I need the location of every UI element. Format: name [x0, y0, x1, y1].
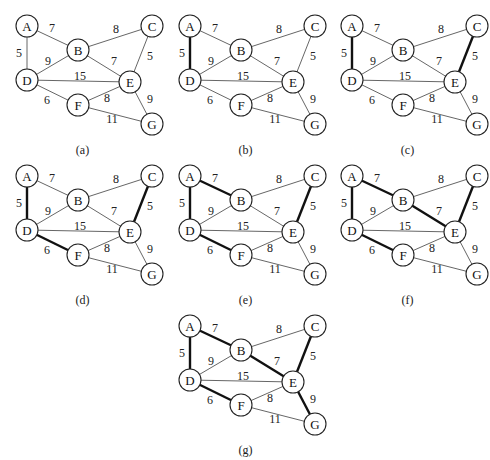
node-C: C — [304, 165, 326, 187]
edge-weight-DF: 6 — [207, 243, 213, 257]
edge-weight-BC: 8 — [276, 22, 282, 36]
node-label: C — [311, 319, 320, 334]
graph-canvas: 7589751568911ABCDEFG — [325, 0, 490, 140]
node-E: E — [282, 371, 304, 393]
edge-weight-BC: 8 — [113, 22, 119, 36]
edge-weight-DF: 6 — [207, 93, 213, 107]
edge-weight-FG: 11 — [269, 112, 281, 126]
node-D: D — [16, 219, 38, 241]
node-label: A — [347, 19, 357, 34]
edge-weight-FG: 11 — [106, 262, 118, 276]
graph-canvas: 7589751568911ABCDEFG — [0, 0, 165, 140]
node-B: B — [67, 39, 89, 61]
node-label: F — [237, 248, 244, 263]
edge-weight-FG: 11 — [431, 112, 443, 126]
edge-weight-BC: 8 — [276, 172, 282, 186]
node-label: E — [289, 75, 297, 90]
node-A: A — [179, 315, 201, 337]
node-label: A — [185, 19, 195, 34]
edge-weight-DE: 15 — [399, 69, 411, 83]
edge-weight-AB: 7 — [374, 171, 380, 185]
node-D: D — [179, 369, 201, 391]
edge-weight-AB: 7 — [212, 321, 218, 335]
panel-caption: (d) — [0, 293, 165, 308]
node-C: C — [141, 15, 163, 37]
edge-weight-AB: 7 — [49, 171, 55, 185]
edge-weight-DF: 6 — [369, 93, 375, 107]
node-label: A — [185, 169, 195, 184]
node-C: C — [304, 15, 326, 37]
node-E: E — [282, 71, 304, 93]
edge-weight-CE: 5 — [310, 49, 316, 63]
panel-caption: (g) — [163, 443, 328, 458]
node-D: D — [341, 219, 363, 241]
node-A: A — [179, 165, 201, 187]
node-label: F — [399, 98, 406, 113]
node-label: F — [237, 398, 244, 413]
edge-weight-FG: 11 — [431, 262, 443, 276]
node-label: B — [399, 43, 408, 58]
node-label: A — [22, 169, 32, 184]
edge-weight-FE: 8 — [267, 241, 273, 255]
edge-weight-BC: 8 — [113, 172, 119, 186]
edge-weight-BD: 9 — [45, 54, 51, 68]
node-F: F — [230, 244, 252, 266]
graph-panel-d: 7589751568911ABCDEFG(d) — [0, 150, 165, 310]
node-A: A — [341, 165, 363, 187]
edge-weight-FG: 11 — [269, 262, 281, 276]
edge-weight-FE: 8 — [104, 91, 110, 105]
node-label: E — [451, 75, 459, 90]
node-A: A — [16, 165, 38, 187]
node-label: A — [347, 169, 357, 184]
edge-weight-DE: 15 — [74, 69, 86, 83]
node-F: F — [392, 244, 414, 266]
edge-weight-EG: 9 — [147, 92, 153, 106]
edge-weight-AB: 7 — [374, 21, 380, 35]
node-label: D — [185, 223, 194, 238]
node-label: E — [451, 225, 459, 240]
node-A: A — [341, 15, 363, 37]
node-B: B — [67, 189, 89, 211]
node-C: C — [304, 315, 326, 337]
edge-weight-BE: 7 — [274, 54, 280, 68]
node-D: D — [341, 69, 363, 91]
edge-weight-BD: 9 — [370, 54, 376, 68]
edge-weight-CE: 5 — [472, 199, 478, 213]
node-label: A — [185, 319, 195, 334]
node-B: B — [230, 189, 252, 211]
node-label: E — [126, 225, 134, 240]
node-B: B — [392, 189, 414, 211]
edge-weight-BE: 7 — [436, 54, 442, 68]
graph-canvas: 7589751568911ABCDEFG — [163, 0, 328, 140]
node-E: E — [119, 71, 141, 93]
edge-weight-CE: 5 — [310, 349, 316, 363]
edge-weight-BC: 8 — [276, 322, 282, 336]
node-G: G — [141, 263, 163, 285]
edge-weight-BD: 9 — [208, 204, 214, 218]
node-F: F — [230, 94, 252, 116]
edge-weight-BC: 8 — [438, 172, 444, 186]
edge-weight-CE: 5 — [472, 49, 478, 63]
edge-weight-BE: 7 — [436, 204, 442, 218]
edge-weight-AD: 5 — [341, 196, 347, 210]
node-label: C — [473, 19, 482, 34]
edge-weight-DE: 15 — [74, 219, 86, 233]
edge-weight-AB: 7 — [212, 21, 218, 35]
node-G: G — [466, 263, 488, 285]
node-E: E — [444, 71, 466, 93]
node-F: F — [67, 94, 89, 116]
node-label: B — [74, 43, 83, 58]
edge-weight-FE: 8 — [429, 91, 435, 105]
node-label: C — [148, 169, 157, 184]
edge-weight-CE: 5 — [147, 199, 153, 213]
edge-weight-BE: 7 — [111, 204, 117, 218]
node-C: C — [466, 165, 488, 187]
node-label: F — [74, 248, 81, 263]
node-label: D — [22, 223, 31, 238]
graph-panel-e: 7589751568911ABCDEFG(e) — [163, 150, 328, 310]
edge-weight-DF: 6 — [44, 93, 50, 107]
edge-weight-BD: 9 — [370, 204, 376, 218]
node-D: D — [179, 219, 201, 241]
edge-weight-AD: 5 — [16, 196, 22, 210]
node-B: B — [230, 339, 252, 361]
